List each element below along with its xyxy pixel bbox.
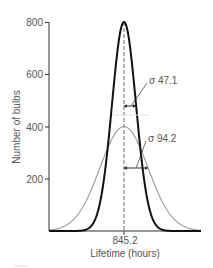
- bulb-lifetime-chart: 800 600 400 200 Number of bulbs 845.2 Li…: [0, 0, 213, 268]
- sigma-wide-annotation: σ 94.2: [124, 133, 177, 170]
- wide-distribution-curve: [49, 127, 201, 231]
- caption-remnant: [14, 265, 28, 267]
- x-tick-label-mean: 845.2: [112, 235, 137, 246]
- sigma-narrow-label: σ 47.1: [149, 75, 178, 86]
- y-tick-800: 800: [26, 17, 43, 28]
- y-tick-600: 600: [26, 69, 43, 80]
- y-tick-200: 200: [26, 174, 43, 185]
- sigma-narrow-annotation: σ 47.1: [124, 75, 178, 108]
- x-axis-label: Lifetime (hours): [90, 248, 159, 259]
- y-tick-400: 400: [26, 122, 43, 133]
- y-axis-label: Number of bulbs: [11, 90, 22, 163]
- y-ticks: 800 600 400 200: [26, 17, 49, 185]
- sigma-wide-label: σ 94.2: [148, 133, 177, 144]
